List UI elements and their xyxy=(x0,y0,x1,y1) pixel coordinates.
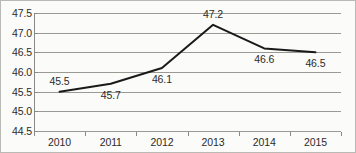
y-axis-tick-label: 45.0 xyxy=(2,106,32,116)
x-axis-tick-mark xyxy=(341,132,342,136)
line-chart: 47.547.046.546.045.545.044.5 45.545.746.… xyxy=(0,0,356,153)
y-axis-tick-label: 46.5 xyxy=(2,47,32,57)
y-axis-tick-label: 47.5 xyxy=(2,8,32,18)
data-point-label: 45.5 xyxy=(50,76,70,86)
y-axis-tick-label: 45.5 xyxy=(2,87,32,97)
x-axis-label: 2010 xyxy=(34,135,85,151)
x-axis-label: 2013 xyxy=(188,135,239,151)
y-axis-tick-labels: 47.547.046.546.045.545.044.5 xyxy=(1,13,32,131)
series-polyline xyxy=(60,25,316,92)
y-axis-tick-label: 44.5 xyxy=(2,126,32,136)
x-axis-label: 2015 xyxy=(290,135,341,151)
y-axis-tick-label: 46.0 xyxy=(2,67,32,77)
x-axis-label: 2012 xyxy=(136,135,187,151)
data-point-label: 46.5 xyxy=(305,58,325,68)
data-point-label: 46.1 xyxy=(152,74,172,84)
x-axis-label: 2011 xyxy=(85,135,136,151)
series-line xyxy=(34,13,341,131)
data-point-label: 47.2 xyxy=(203,9,223,19)
y-axis-tick-label: 47.0 xyxy=(2,28,32,38)
x-axis-label: 2014 xyxy=(239,135,290,151)
data-point-label: 45.7 xyxy=(101,90,121,100)
data-point-label: 46.6 xyxy=(254,54,274,64)
x-axis-labels: 201020112012201320142015 xyxy=(34,135,341,151)
